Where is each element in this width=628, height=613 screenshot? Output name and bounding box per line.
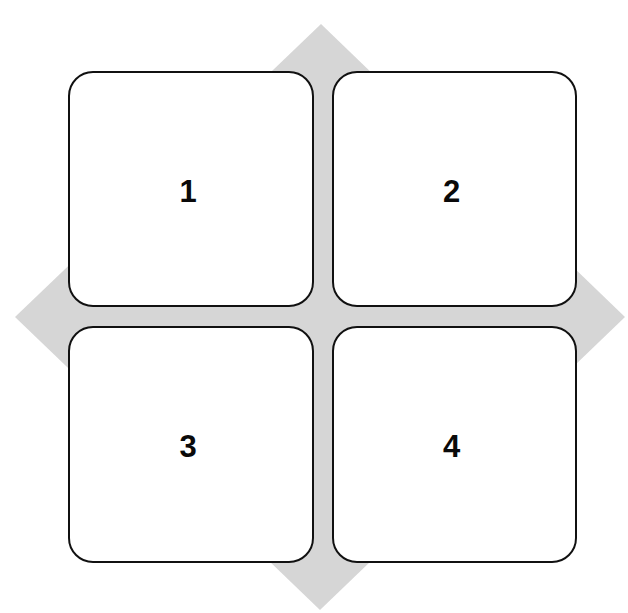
quadrant-label-4: 4	[443, 431, 460, 462]
quadrant-box-2: 2	[332, 71, 577, 307]
quadrant-box-1: 1	[68, 71, 314, 307]
quadrant-box-4: 4	[332, 326, 577, 563]
quadrant-label-2: 2	[443, 176, 460, 207]
quadrant-box-3: 3	[68, 326, 314, 563]
quadrant-label-1: 1	[179, 176, 196, 207]
quadrant-diagram: 1 2 3 4	[0, 0, 628, 613]
quadrant-label-3: 3	[179, 431, 196, 462]
